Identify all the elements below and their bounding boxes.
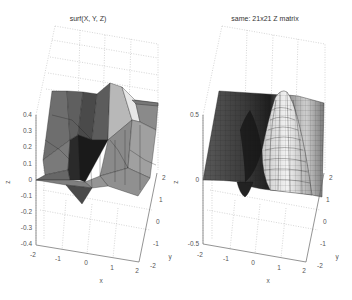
svg-text:-2: -2 bbox=[197, 251, 203, 258]
figure: surf(X, Y, Z) bbox=[0, 0, 352, 300]
svg-text:1: 1 bbox=[326, 196, 330, 203]
y-axis-label: y bbox=[335, 253, 339, 261]
svg-text:-0.2: -0.2 bbox=[21, 208, 33, 215]
svg-text:0.5: 0.5 bbox=[190, 111, 199, 118]
svg-text:0: 0 bbox=[195, 176, 199, 183]
surface-fine bbox=[203, 91, 324, 197]
svg-text:0: 0 bbox=[84, 259, 88, 266]
z-axis-label: z bbox=[4, 180, 11, 183]
svg-text:-2: -2 bbox=[150, 262, 156, 269]
svg-text:-0.3: -0.3 bbox=[21, 224, 33, 231]
svg-text:-2: -2 bbox=[317, 262, 323, 269]
y-axis-ticks: -2 -1 0 1 2 y bbox=[150, 174, 172, 269]
svg-text:2: 2 bbox=[162, 174, 166, 181]
svg-text:0.2: 0.2 bbox=[23, 143, 32, 150]
x-axis-ticks: -2 -1 0 1 2 x bbox=[197, 251, 306, 284]
z-axis-ticks: 0.5 0 -0.5 z bbox=[172, 111, 199, 247]
svg-text:-0.5: -0.5 bbox=[188, 240, 200, 247]
x-axis-ticks: -2 -1 0 1 2 x bbox=[30, 251, 139, 284]
y-axis-label: y bbox=[168, 253, 172, 261]
svg-text:-0.1: -0.1 bbox=[21, 192, 33, 199]
z-axis-label: z bbox=[172, 180, 179, 183]
svg-text:0: 0 bbox=[156, 218, 160, 225]
svg-text:1: 1 bbox=[277, 264, 281, 271]
svg-text:2: 2 bbox=[135, 267, 139, 274]
z-axis-ticks: 0.4 0.3 0.2 0.1 0 -0.1 -0.2 -0.3 -0.4 z bbox=[4, 111, 32, 247]
svg-text:1: 1 bbox=[159, 196, 163, 203]
svg-text:-1: -1 bbox=[55, 255, 61, 262]
svg-text:0: 0 bbox=[323, 218, 327, 225]
svg-text:-1: -1 bbox=[320, 240, 326, 247]
svg-text:0.4: 0.4 bbox=[23, 111, 32, 118]
svg-text:-1: -1 bbox=[153, 240, 159, 247]
surface-coarse bbox=[36, 83, 158, 204]
panel-title: surf(X, Y, Z) bbox=[70, 15, 107, 23]
svg-text:0: 0 bbox=[28, 176, 32, 183]
svg-text:2: 2 bbox=[329, 174, 333, 181]
x-axis-label: x bbox=[266, 277, 270, 284]
panel-right-fine-surface: same: 21x21 Z matrix bbox=[172, 15, 339, 284]
panel-left-coarse-surface: surf(X, Y, Z) bbox=[4, 15, 172, 284]
x-axis-label: x bbox=[99, 277, 103, 284]
panel-title: same: 21x21 Z matrix bbox=[231, 15, 299, 22]
svg-text:-0.4: -0.4 bbox=[21, 240, 33, 247]
svg-text:0.1: 0.1 bbox=[23, 160, 32, 167]
svg-text:-1: -1 bbox=[223, 255, 229, 262]
svg-text:1: 1 bbox=[110, 264, 114, 271]
svg-text:0: 0 bbox=[251, 259, 255, 266]
svg-text:2: 2 bbox=[302, 267, 306, 274]
svg-text:0.3: 0.3 bbox=[23, 127, 32, 134]
svg-text:-2: -2 bbox=[30, 251, 36, 258]
